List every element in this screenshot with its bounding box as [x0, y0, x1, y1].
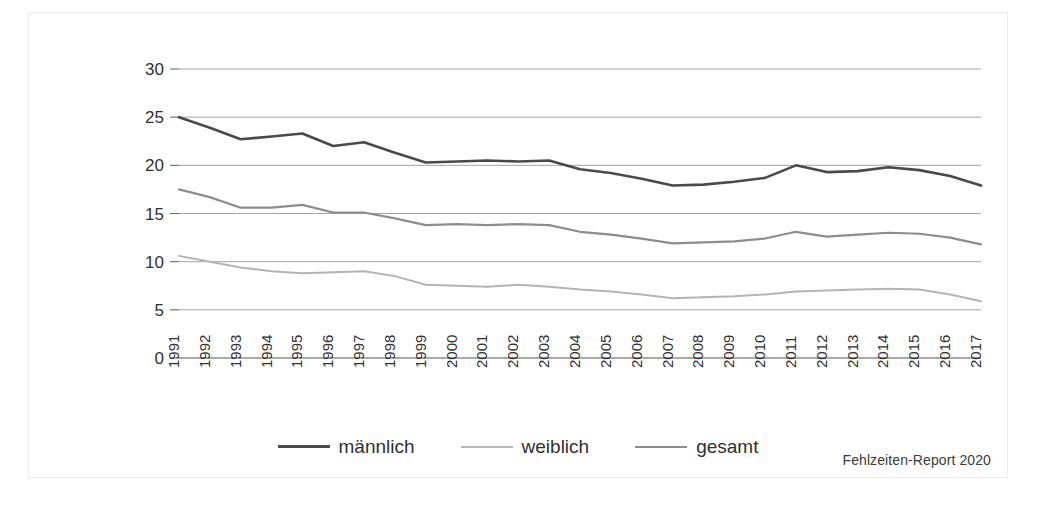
- y-axis-tick-labels: 051015202530: [145, 60, 164, 368]
- legend-label-maennlich: männlich: [339, 437, 415, 456]
- data-series-group: [179, 117, 981, 301]
- x-tick-label-2009: 2009: [720, 335, 737, 368]
- line-chart-canvas: 051015202530 199119921993199419951996199…: [29, 13, 1007, 477]
- x-tick-label-1998: 1998: [381, 335, 398, 368]
- x-tick-label-2002: 2002: [504, 335, 521, 368]
- legend-item-weiblich[interactable]: weiblich: [461, 437, 590, 456]
- x-tick-label-2010: 2010: [751, 335, 768, 368]
- y-tick-label-5: 5: [155, 301, 164, 320]
- series-line-gesamt: [179, 189, 981, 244]
- x-tick-label-2001: 2001: [473, 335, 490, 368]
- x-tick-label-1996: 1996: [319, 335, 336, 368]
- x-tick-label-2011: 2011: [782, 336, 799, 368]
- gridlines-group: [170, 69, 981, 358]
- x-tick-label-2012: 2012: [813, 335, 830, 368]
- x-tick-label-1993: 1993: [227, 335, 244, 368]
- x-tick-label-2015: 2015: [905, 335, 922, 368]
- x-tick-label-2006: 2006: [628, 335, 645, 368]
- source-note: Fehlzeiten-Report 2020: [842, 452, 991, 468]
- series-line-weiblich: [179, 256, 981, 301]
- y-tick-label-25: 25: [145, 108, 164, 127]
- x-tick-label-2003: 2003: [535, 335, 552, 368]
- legend-swatch-weiblich: [461, 446, 513, 448]
- y-tick-label-0: 0: [155, 349, 164, 368]
- y-tick-label-30: 30: [145, 60, 164, 79]
- legend-swatch-gesamt: [635, 446, 687, 448]
- x-axis-tick-labels: 1991199219931994199519961997199819992000…: [165, 335, 984, 368]
- y-tick-label-20: 20: [145, 156, 164, 175]
- x-tick-label-2014: 2014: [874, 335, 891, 368]
- series-line-maennlich: [179, 117, 981, 185]
- x-tick-label-2000: 2000: [443, 335, 460, 368]
- chart-figure: 051015202530 199119921993199419951996199…: [28, 12, 1008, 478]
- legend-item-gesamt[interactable]: gesamt: [635, 437, 758, 456]
- legend-swatch-maennlich: [278, 445, 330, 448]
- x-tick-label-1991: 1991: [165, 335, 182, 368]
- y-tick-label-10: 10: [145, 253, 164, 272]
- x-tick-label-1992: 1992: [196, 335, 213, 368]
- legend-label-weiblich: weiblich: [522, 437, 590, 456]
- x-tick-label-2013: 2013: [844, 335, 861, 368]
- x-tick-label-1995: 1995: [288, 335, 305, 368]
- x-tick-label-1994: 1994: [258, 335, 275, 368]
- x-tick-label-1997: 1997: [350, 335, 367, 368]
- x-tick-label-2004: 2004: [566, 335, 583, 368]
- x-tick-label-2007: 2007: [659, 335, 676, 368]
- x-tick-label-2016: 2016: [936, 335, 953, 368]
- x-tick-label-2017: 2017: [967, 335, 984, 368]
- x-tick-label-1999: 1999: [412, 335, 429, 368]
- legend-item-maennlich[interactable]: männlich: [278, 437, 415, 456]
- y-tick-label-15: 15: [145, 205, 164, 224]
- x-tick-label-2005: 2005: [597, 335, 614, 368]
- legend-label-gesamt: gesamt: [696, 437, 758, 456]
- x-tick-label-2008: 2008: [689, 335, 706, 368]
